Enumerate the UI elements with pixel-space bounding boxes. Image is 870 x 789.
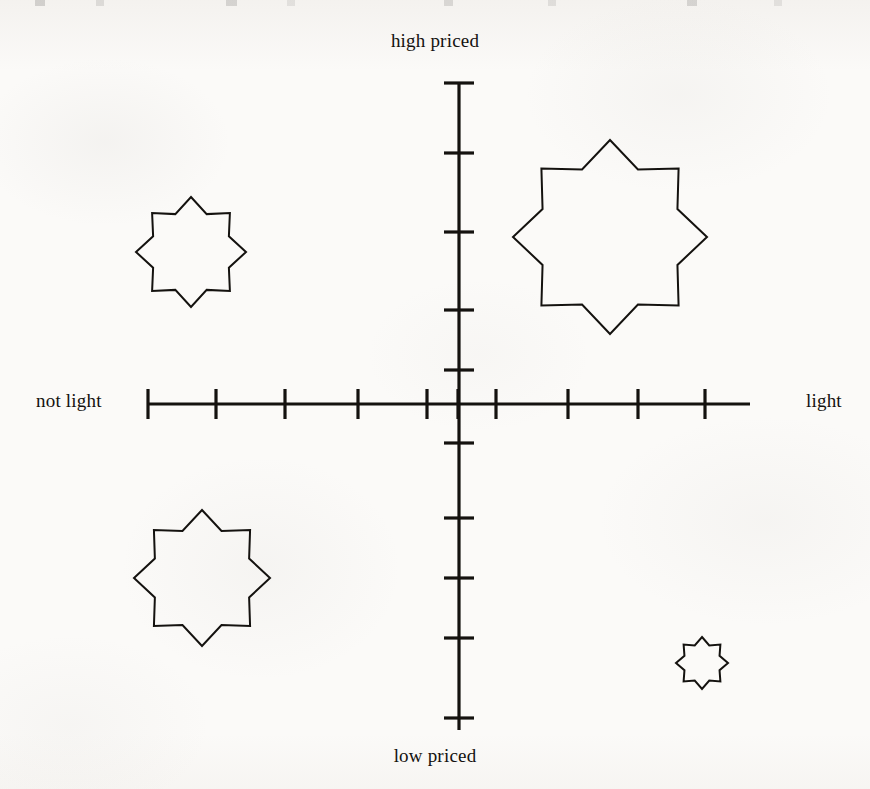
axis-label-high-priced: high priced (0, 30, 870, 52)
axis-label-light: light (806, 390, 842, 412)
star-marker-brand-lower-left (134, 510, 270, 646)
axis-label-not-light: not light (36, 390, 102, 412)
perceptual-map-page: high priced low priced not light light (0, 0, 870, 789)
star-marker-brand-upper-right (513, 140, 707, 334)
star-marker-brand-lower-right (676, 637, 728, 689)
star-marker-brand-upper-left (136, 197, 246, 307)
perceptual-map-plot (0, 0, 870, 789)
axes-group (148, 83, 750, 730)
axis-label-low-priced: low priced (0, 745, 870, 767)
